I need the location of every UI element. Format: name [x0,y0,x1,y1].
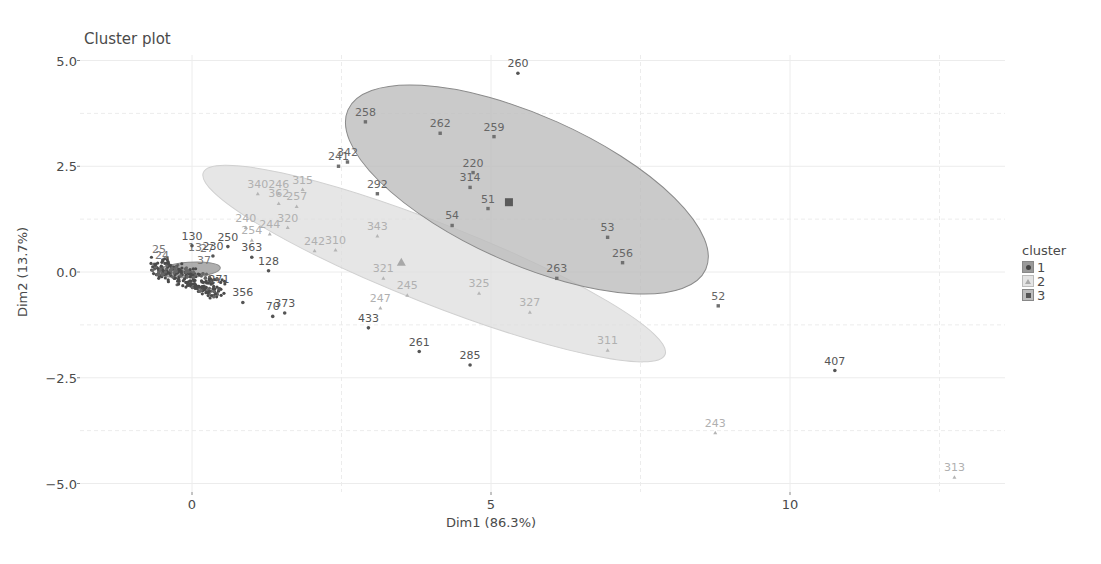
data-point [250,255,254,259]
point-label: 128 [258,255,279,268]
x-tick-label: 5 [487,497,495,512]
point-label: 257 [286,190,307,203]
point-label: 247 [370,292,391,305]
point-label: 130 [182,230,203,243]
point-label: 230 [202,240,223,253]
data-point [271,315,275,319]
point-label: 242 [304,235,325,248]
y-axis-label: Dim2 (13.7%) [15,212,30,332]
point-label: 373 [274,297,295,310]
data-point [217,287,221,291]
legend-item-2: 2 [1022,274,1066,288]
point-label: 433 [358,312,379,325]
data-point [283,311,287,315]
x-tick-label: 0 [188,497,196,512]
data-point [376,192,379,195]
legend-label: 3 [1037,288,1045,303]
point-label: 363 [241,241,262,254]
point-label: 292 [367,178,388,191]
point-label: 315 [292,174,313,187]
chart-title: Cluster plot [84,30,171,48]
point-label: 262 [430,117,451,130]
point-label: 311 [597,334,618,347]
point-label: 313 [944,461,965,474]
data-point [337,165,340,168]
point-label: 254 [241,224,262,237]
y-tick-label: 0.0 [56,265,77,280]
data-point [717,304,720,307]
data-point [606,236,609,239]
point-label: 271 [208,273,229,286]
cluster-3-centroid [505,198,513,206]
point-label: 320 [277,212,298,225]
data-point [450,224,453,227]
point-label: 245 [397,279,418,292]
point-label: 261 [409,336,430,349]
point-label: 356 [232,286,253,299]
point-label: 54 [445,209,459,222]
point-label: 220 [463,157,484,170]
plot-area: 2524132737130250230363128271356703734332… [0,0,1101,564]
data-point [516,71,520,75]
point-label: 342 [337,146,358,159]
data-point [226,245,230,249]
y-tick-label: 2.5 [56,159,77,174]
point-label: 327 [519,296,540,309]
point-label: 37 [197,254,211,267]
point-label: 340 [247,178,268,191]
legend-item-1: 1 [1022,260,1066,274]
point-label: 240 [235,212,256,225]
point-label: 260 [507,57,528,70]
data-point [364,120,367,123]
data-point [438,132,441,135]
legend: cluster 1 2 3 [1022,243,1066,302]
y-tick-label: −2.5 [45,370,77,385]
point-label: 310 [325,234,346,247]
data-point [486,207,489,210]
data-point [833,369,837,373]
point-label: 314 [460,171,481,184]
data-point [492,135,495,138]
point-label: 24 [155,249,169,262]
legend-title: cluster [1022,243,1066,258]
data-point [267,269,271,273]
data-point [190,244,194,248]
point-label: 51 [481,193,495,206]
point-label: 263 [546,262,567,275]
point-label: 53 [601,221,615,234]
data-point [468,186,471,189]
data-point [621,261,624,264]
legend-item-3: 3 [1022,288,1066,302]
point-label: 343 [367,220,388,233]
data-point [241,301,245,305]
y-tick-label: −5.0 [45,476,77,491]
point-label: 321 [373,262,394,275]
data-point [417,350,421,354]
point-label: 243 [705,417,726,430]
x-tick-label: 10 [782,497,799,512]
circle-marker-icon [1022,261,1034,273]
x-axis-label: Dim1 (86.3%) [446,515,536,530]
square-marker-icon [1022,289,1034,301]
legend-label: 1 [1037,260,1045,275]
point-label: 407 [824,355,845,368]
data-point [555,277,558,280]
data-point [211,254,215,258]
data-point [468,363,472,367]
cluster-plot: 2524132737130250230363128271356703734332… [0,0,1101,564]
point-label: 256 [612,247,633,260]
point-label: 285 [460,349,481,362]
triangle-marker-icon [1022,275,1034,287]
point-label: 52 [711,290,725,303]
y-tick-label: 5.0 [56,53,77,68]
legend-label: 2 [1037,274,1045,289]
point-label: 259 [483,121,504,134]
data-point [367,326,371,330]
point-label: 258 [355,106,376,119]
point-label: 325 [469,277,490,290]
data-point [346,160,349,163]
